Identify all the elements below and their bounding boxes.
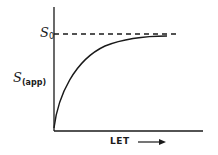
arrow-right-icon	[138, 139, 166, 145]
x-axis-label: LET	[110, 137, 130, 146]
s0-label: S0	[40, 26, 54, 41]
y-axis-label: S(app)	[13, 71, 46, 87]
saturation-curve	[54, 36, 167, 128]
